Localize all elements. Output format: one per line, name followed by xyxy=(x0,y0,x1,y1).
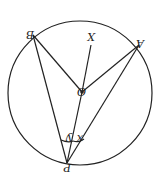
segment-A-O xyxy=(82,45,139,92)
label-angle-x: x xyxy=(76,132,83,145)
label-A: A xyxy=(136,37,145,50)
label-B: B xyxy=(26,28,35,41)
label-angle-y: y xyxy=(65,132,73,145)
segment-O-P xyxy=(67,92,82,163)
label-P: P xyxy=(63,161,72,174)
label-O: O xyxy=(77,85,86,98)
label-X: X xyxy=(86,30,96,43)
circle-diagram: B A X O P x y xyxy=(0,0,156,181)
